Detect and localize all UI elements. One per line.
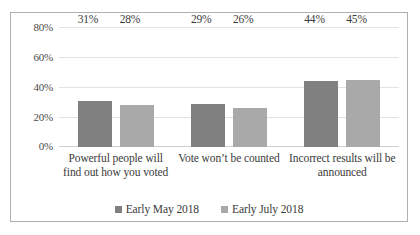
y-axis-tick-80: 80% [33, 21, 53, 33]
bar-column: 44% [304, 27, 338, 147]
legend-item[interactable]: Early July 2018 [221, 203, 303, 215]
bar-column: 26% [233, 27, 267, 147]
x-axis-category-label: Incorrect results will be announced [286, 151, 399, 179]
legend-item[interactable]: Early May 2018 [115, 203, 199, 215]
bar-value-label: 44% [304, 13, 324, 25]
bar[interactable]: 44% [304, 81, 338, 147]
bar-value-label: 26% [233, 13, 253, 25]
bar-value-label: 31% [78, 13, 98, 25]
bar-group: 31%28% [59, 27, 172, 147]
bar[interactable]: 29% [191, 104, 225, 148]
bar[interactable]: 26% [233, 108, 267, 147]
x-axis-category-labels: Powerful people will find out how you vo… [59, 151, 399, 179]
square-marker-icon [115, 206, 122, 213]
bar-column: 28% [120, 27, 154, 147]
square-marker-icon [221, 206, 228, 213]
y-axis-tick-60: 60% [33, 51, 53, 63]
chart-container: 80% 60% 40% 20% 0% 31%28%29%26%44%45% Po… [10, 12, 408, 222]
bar-column: 45% [346, 27, 380, 147]
bar-value-label: 28% [120, 13, 140, 25]
bar-column: 31% [78, 27, 112, 147]
bar-pair: 29%26% [172, 27, 285, 147]
bar-pair: 44%45% [286, 27, 399, 147]
bar-groups: 31%28%29%26%44%45% [59, 27, 399, 147]
y-axis-tick-0: 0% [39, 140, 53, 152]
bar-value-label: 45% [346, 13, 366, 25]
y-axis-tick-20: 20% [33, 111, 53, 123]
plot-area: 80% 60% 40% 20% 0% 31%28%29%26%44%45% [59, 27, 399, 147]
legend-label: Early July 2018 [232, 203, 303, 215]
bar-column: 29% [191, 27, 225, 147]
x-axis-category-label: Powerful people will find out how you vo… [59, 151, 172, 179]
bar-pair: 31%28% [59, 27, 172, 147]
bar-value-label: 29% [191, 13, 211, 25]
chart-legend: Early May 2018Early July 2018 [11, 203, 407, 215]
bar-group: 29%26% [172, 27, 285, 147]
legend-label: Early May 2018 [126, 203, 199, 215]
x-axis-category-label: Vote won’t be counted [172, 151, 285, 179]
bar[interactable]: 45% [346, 80, 380, 148]
y-axis-tick-40: 40% [33, 81, 53, 93]
bar[interactable]: 28% [120, 105, 154, 147]
bar-group: 44%45% [286, 27, 399, 147]
bar[interactable]: 31% [78, 101, 112, 148]
